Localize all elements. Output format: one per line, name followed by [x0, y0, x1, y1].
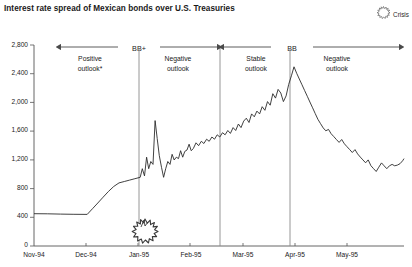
chart-plot-area: [0, 0, 412, 267]
spread-line-series: [34, 67, 404, 215]
crisis-marker-starburst-icon: [132, 219, 158, 243]
chart-container: Interest rate spread of Mexican bonds ov…: [0, 0, 412, 267]
outlook-divider-lines: [139, 48, 290, 246]
chart-axes: [30, 45, 404, 246]
